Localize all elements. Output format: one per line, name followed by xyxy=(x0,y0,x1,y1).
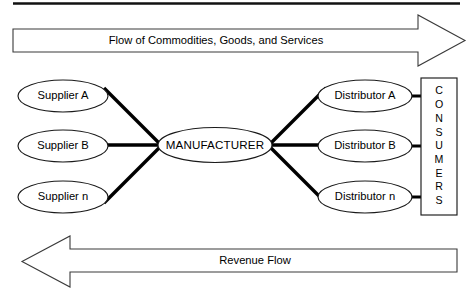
consumers-letter: U xyxy=(435,139,443,151)
connector-distributor-n xyxy=(270,147,326,203)
connector-supplier-n xyxy=(104,147,160,203)
supply-chain-diagram: Flow of Commodities, Goods, and Services… xyxy=(0,0,475,295)
consumers-letter: R xyxy=(435,180,443,192)
connector-supplier-a xyxy=(104,88,160,144)
node-distributor-n-label: Distributor n xyxy=(335,190,395,202)
consumers-letter: O xyxy=(435,98,443,110)
node-supplier-a-label: Supplier A xyxy=(38,89,90,101)
flow-arrow-bottom-label: Revenue Flow xyxy=(219,254,291,266)
flow-arrow-top-label: Flow of Commodities, Goods, and Services xyxy=(109,34,324,46)
consumers-letter: N xyxy=(435,112,443,124)
consumers-letter: S xyxy=(435,194,442,206)
node-distributor-b-label: Distributor B xyxy=(334,139,396,151)
node-consumers-label: CONSUMERS xyxy=(435,84,444,206)
node-distributor-a-label: Distributor A xyxy=(335,89,396,101)
diagram-canvas: Flow of Commodities, Goods, and Services… xyxy=(0,0,475,295)
consumers-letter: M xyxy=(435,153,444,165)
node-supplier-n-label: Supplier n xyxy=(38,190,88,202)
node-supplier-b-label: Supplier B xyxy=(37,139,89,151)
consumers-letter: S xyxy=(435,126,442,138)
node-manufacturer-label: MANUFACTURER xyxy=(166,138,264,151)
consumers-letter: E xyxy=(435,167,442,179)
consumers-letter: C xyxy=(435,84,443,96)
